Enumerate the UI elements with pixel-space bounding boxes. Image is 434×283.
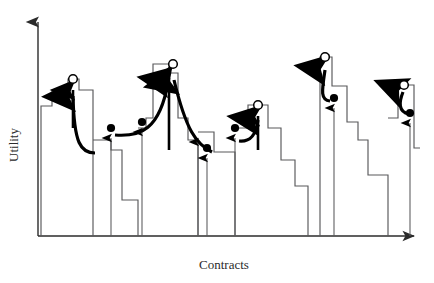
step-path-segment-5	[235, 105, 308, 236]
transition-arrow-1	[73, 96, 95, 153]
step-path-segment-2	[93, 140, 138, 236]
step-path-segment-6	[320, 57, 388, 236]
state-dot-3	[203, 144, 211, 152]
transition-arrow-5	[323, 70, 330, 101]
transition-arrow-3	[174, 80, 212, 152]
transition-arrow-2	[115, 82, 168, 135]
utility-step-curve	[41, 57, 420, 236]
state-dot-2	[138, 118, 146, 126]
state-dot-5	[330, 94, 338, 102]
x-axis-label: Contracts	[199, 257, 249, 272]
optimum-circle-2	[169, 60, 178, 69]
optimum-circle-5	[400, 81, 409, 90]
chart-canvas: Utility Contracts	[0, 0, 434, 283]
optimum-circle-4	[321, 53, 330, 62]
state-dot-6	[406, 109, 414, 117]
optimum-circle-3	[254, 101, 263, 110]
optimum-circles-group	[69, 53, 409, 110]
step-path-segment-1	[41, 79, 93, 236]
state-dot-1	[107, 124, 115, 132]
stem-arrows-group	[73, 78, 410, 236]
optimum-circle-1	[69, 75, 78, 84]
state-dot-4	[231, 124, 239, 132]
step-path-segment-7	[388, 85, 420, 148]
utility-contracts-figure: Utility Contracts	[0, 0, 434, 283]
y-axis-label: Utility	[6, 128, 21, 162]
